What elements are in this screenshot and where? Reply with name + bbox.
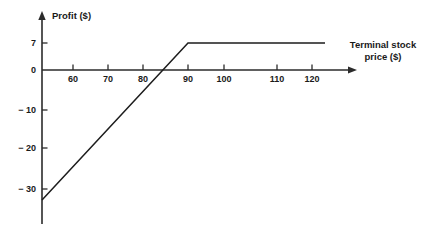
- x-tick-label-70: 70: [103, 74, 113, 84]
- x-axis-title-line1: Terminal stock: [350, 39, 417, 50]
- x-axis-title-line2: price ($): [365, 51, 402, 62]
- x-tick-label-90: 90: [183, 74, 193, 84]
- y-tick-label-m30: − 30: [18, 184, 36, 194]
- y-tick-label-m20: − 20: [18, 143, 36, 153]
- y-tick-label-0: 0: [31, 65, 36, 75]
- x-tick-label-80: 80: [138, 74, 148, 84]
- x-tick-label-110: 110: [270, 74, 285, 84]
- profit-payoff-line: [42, 43, 325, 200]
- arrow-right-icon: [348, 66, 357, 73]
- y-axis-title: Profit ($): [52, 10, 91, 21]
- payoff-diagram: 60 70 80 90 100 110 120 7 0 − 10 − 20 − …: [0, 0, 423, 238]
- chart-figure: 60 70 80 90 100 110 120 7 0 − 10 − 20 − …: [0, 0, 423, 238]
- arrow-up-icon: [38, 11, 45, 20]
- y-tick-label-m10: − 10: [18, 105, 36, 115]
- x-tick-label-100: 100: [216, 74, 231, 84]
- y-tick-label-7: 7: [31, 38, 36, 48]
- x-tick-label-120: 120: [304, 74, 319, 84]
- x-tick-label-60: 60: [68, 74, 78, 84]
